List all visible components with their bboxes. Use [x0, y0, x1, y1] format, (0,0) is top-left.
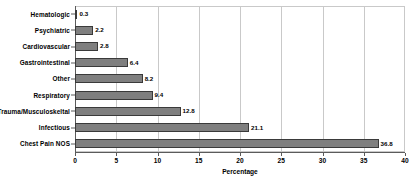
bar-value-label: 6.4	[130, 60, 139, 66]
bar-track: 8.2	[75, 71, 418, 87]
bar-row: Infectious21.1	[0, 120, 418, 136]
bar-value-label: 2.2	[95, 27, 104, 33]
bar-value-label: 9.4	[155, 92, 164, 98]
x-tick-mark-5	[116, 153, 117, 156]
category-label: Other	[0, 71, 70, 87]
x-tick-label: 0	[73, 157, 77, 164]
x-tick-label: 10	[154, 157, 161, 164]
x-tick-mark-0	[75, 153, 76, 156]
category-label: Cardiovascular	[0, 38, 70, 54]
x-tick-mark-35	[364, 153, 365, 156]
bar	[75, 10, 77, 19]
x-tick-label: 20	[236, 157, 243, 164]
bar-value-label: 21.1	[251, 125, 263, 131]
x-tick-mark-20	[240, 153, 241, 156]
bar-row: Cardiovascular2.8	[0, 38, 418, 54]
x-tick-mark-30	[323, 153, 324, 156]
x-axis-title: Percentage	[75, 168, 405, 175]
bar-track: 9.4	[75, 87, 418, 103]
x-tick-label: 25	[278, 157, 285, 164]
bar-track: 6.4	[75, 55, 418, 71]
bar-row: Psychiatric2.2	[0, 22, 418, 38]
category-label: Respiratory	[0, 87, 70, 103]
x-tick-mark-15	[199, 153, 200, 156]
bar-value-label: 2.8	[100, 43, 109, 49]
bar-row: Gastrointestinal6.4	[0, 55, 418, 71]
x-tick-label: 5	[114, 157, 118, 164]
x-tick-label: 15	[195, 157, 202, 164]
bar-track: 21.1	[75, 120, 418, 136]
bar	[75, 91, 153, 100]
bar-value-label: 36.8	[381, 141, 393, 147]
bar-value-label: 8.2	[145, 76, 154, 82]
bar-track: 0.3	[75, 6, 418, 22]
x-tick-label: 35	[360, 157, 367, 164]
bar	[75, 139, 379, 148]
bar-row: Other8.2	[0, 71, 418, 87]
bar-row: Hematologic0.3	[0, 6, 418, 22]
bar-row: Chest Pain NOS36.8	[0, 136, 418, 152]
bar-rows: Hematologic0.3Psychiatric2.2Cardiovascul…	[0, 6, 418, 152]
bar-track: 12.8	[75, 103, 418, 119]
bar	[75, 26, 93, 35]
category-label: Gastrointestinal	[0, 55, 70, 71]
bar-track: 2.2	[75, 22, 418, 38]
category-label: Trauma/Musculoskeltal	[0, 103, 70, 119]
bar	[75, 74, 143, 83]
bar-value-label: 0.3	[79, 11, 88, 17]
category-label: Psychiatric	[0, 22, 70, 38]
bar-row: Respiratory9.4	[0, 87, 418, 103]
bar-track: 36.8	[75, 136, 418, 152]
category-label: Infectious	[0, 120, 70, 136]
bar-row: Trauma/Musculoskeltal12.8	[0, 103, 418, 119]
bar-chart: Hematologic0.3Psychiatric2.2Cardiovascul…	[0, 0, 418, 183]
category-label: Chest Pain NOS	[0, 136, 70, 152]
bar	[75, 107, 181, 116]
x-tick-mark-10	[158, 153, 159, 156]
x-tick-label: 40	[401, 157, 408, 164]
x-tick-label: 30	[319, 157, 326, 164]
bar-value-label: 12.8	[183, 108, 195, 114]
x-tick-mark-40	[405, 153, 406, 156]
bar-track: 2.8	[75, 38, 418, 54]
category-label: Hematologic	[0, 6, 70, 22]
bar	[75, 58, 128, 67]
bar	[75, 42, 98, 51]
bar	[75, 123, 249, 132]
x-tick-mark-25	[281, 153, 282, 156]
